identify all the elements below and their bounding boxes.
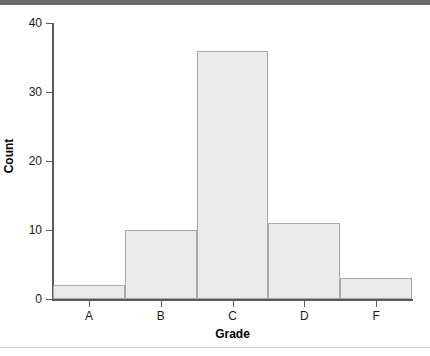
- y-axis-tick-mark: [46, 161, 52, 162]
- bottom-divider-rule: [0, 347, 430, 348]
- plot-area: [53, 23, 412, 299]
- histogram-figure: 010203040 ABCDF Grade Count: [0, 5, 430, 347]
- y-axis-tick-label: 40: [2, 17, 42, 29]
- bar-a: [53, 285, 125, 299]
- bar-d: [268, 223, 340, 299]
- y-axis-tick-mark: [46, 23, 52, 24]
- x-axis-tick-mark: [161, 301, 162, 307]
- y-axis-title: Count: [3, 126, 15, 186]
- y-axis-tick-label: 0: [2, 293, 42, 305]
- y-axis-tick-mark: [46, 92, 52, 93]
- x-axis-title: Grade: [53, 328, 412, 340]
- x-axis-tick-mark: [89, 301, 90, 307]
- x-axis-tick-mark: [233, 301, 234, 307]
- x-axis-tick-label: B: [131, 310, 191, 322]
- x-axis-tick-label: D: [274, 310, 334, 322]
- x-axis-tick-label: A: [59, 310, 119, 322]
- bar-b: [125, 230, 197, 299]
- x-axis-tick-label: F: [346, 310, 406, 322]
- bar-f: [340, 278, 412, 299]
- y-axis-tick-mark: [46, 299, 52, 300]
- y-axis-tick-mark: [46, 230, 52, 231]
- y-axis-tick-label: 30: [2, 86, 42, 98]
- bar-c: [197, 51, 269, 299]
- x-axis-tick-mark: [304, 301, 305, 307]
- x-axis-tick-label: C: [203, 310, 263, 322]
- y-axis-tick-label: 10: [2, 224, 42, 236]
- x-axis-tick-mark: [376, 301, 377, 307]
